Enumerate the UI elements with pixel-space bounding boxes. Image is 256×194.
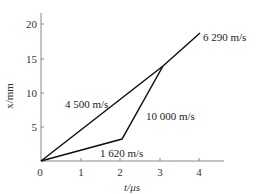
annotation-4500: 4 500 m/s — [65, 98, 108, 110]
annotation-1620: 1 620 m/s — [100, 147, 143, 159]
y-axis-title: x/mm — [3, 83, 15, 109]
x-tick-2: 2 — [117, 166, 123, 178]
chart: 0 1 2 3 4 5 10 15 20 t/μs x/mm 4 500 m/s… — [0, 0, 256, 194]
upper-path-line — [41, 33, 200, 161]
annotation-10000: 10 000 m/s — [146, 110, 195, 122]
x-tick-1: 1 — [78, 166, 84, 178]
x-axis-title: t/μs — [124, 181, 140, 193]
x-tick-0: 0 — [37, 166, 43, 178]
x-tick-4: 4 — [196, 166, 202, 178]
y-tick-5: 5 — [32, 121, 38, 133]
x-tick-3: 3 — [157, 166, 163, 178]
y-tick-20: 20 — [26, 18, 38, 30]
y-tick-15: 15 — [26, 53, 38, 65]
y-tick-10: 10 — [26, 87, 38, 99]
annotation-6290: 6 290 m/s — [203, 31, 246, 43]
